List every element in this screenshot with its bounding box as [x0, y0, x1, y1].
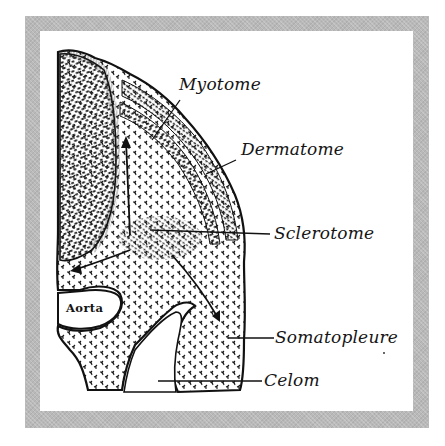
label-celom: Celom: [264, 372, 320, 389]
label-sclerotome: Sclerotome: [274, 225, 374, 242]
label-aorta: Aorta: [66, 303, 103, 315]
label-myotome: Myotome: [179, 76, 261, 93]
label-somatopleure: Somatopleure: [275, 329, 398, 346]
label-dermatome: Dermatome: [241, 141, 344, 158]
somite-illustration: [0, 0, 445, 446]
sclerotome-region: [118, 216, 202, 260]
